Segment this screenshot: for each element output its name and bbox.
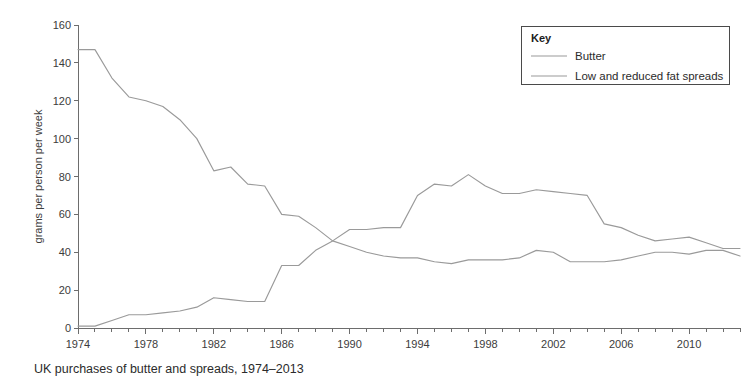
x-tick-label: 2010 xyxy=(677,338,701,350)
y-tick-label: 80 xyxy=(59,171,71,183)
chart-series-group xyxy=(78,50,740,326)
x-tick-label: 1990 xyxy=(337,338,361,350)
x-axis: 1974197819821986199019941998200220062010 xyxy=(66,328,740,350)
x-tick-label: 2002 xyxy=(541,338,565,350)
x-tick-label: 2006 xyxy=(609,338,633,350)
y-tick-label: 40 xyxy=(59,246,71,258)
y-tick-label: 140 xyxy=(53,57,71,69)
y-tick-label: 160 xyxy=(53,19,71,31)
x-tick-label: 1982 xyxy=(202,338,226,350)
x-tick-label: 1974 xyxy=(66,338,90,350)
legend-label-butter: Butter xyxy=(575,50,606,62)
x-tick-label: 1994 xyxy=(405,338,429,350)
chart-figure: 020406080100120140160grams per person pe… xyxy=(0,0,754,381)
x-tick-label: 1986 xyxy=(269,338,293,350)
x-tick-label: 1998 xyxy=(473,338,497,350)
y-tick-label: 0 xyxy=(65,322,71,334)
legend-label-spreads: Low and reduced fat spreads xyxy=(575,70,724,82)
chart-caption: UK purchases of butter and spreads, 1974… xyxy=(34,362,304,376)
legend-title: Key xyxy=(531,32,552,44)
series-line-spreads xyxy=(78,175,740,326)
y-axis: 020406080100120140160grams per person pe… xyxy=(32,19,78,334)
x-tick-label: 1978 xyxy=(134,338,158,350)
y-tick-label: 100 xyxy=(53,133,71,145)
line-chart: 020406080100120140160grams per person pe… xyxy=(0,0,754,381)
y-axis-title: grams per person per week xyxy=(32,109,44,243)
y-tick-label: 120 xyxy=(53,95,71,107)
chart-legend: KeyButterLow and reduced fat spreads xyxy=(521,26,729,84)
y-tick-label: 20 xyxy=(59,284,71,296)
y-tick-label: 60 xyxy=(59,208,71,220)
